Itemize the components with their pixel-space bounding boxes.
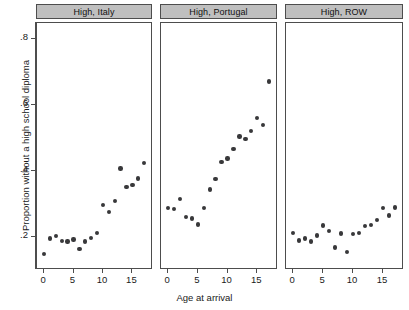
data-point xyxy=(213,177,217,181)
y-tick-mark xyxy=(31,38,35,39)
chart-panel: High, Portugal051015 xyxy=(160,22,277,269)
y-tick-label: .2 xyxy=(6,230,28,240)
x-axis-label: Age at arrival xyxy=(0,292,409,303)
x-tick-mark xyxy=(322,269,323,273)
x-tick-label: 5 xyxy=(185,275,209,285)
x-tick-label: 15 xyxy=(119,275,143,285)
x-tick-mark xyxy=(227,269,228,273)
data-point xyxy=(303,236,307,240)
x-tick-mark xyxy=(382,269,383,273)
data-point xyxy=(48,236,52,240)
y-tick-label: .4 xyxy=(6,164,28,174)
x-tick-mark xyxy=(73,269,74,273)
data-point xyxy=(309,239,313,243)
x-tick-mark xyxy=(167,269,168,273)
x-tick-label: 15 xyxy=(370,275,394,285)
data-point xyxy=(369,223,373,227)
data-point xyxy=(327,229,331,233)
x-tick-mark xyxy=(292,269,293,273)
data-point xyxy=(243,137,247,141)
panel-title-strip: High, ROW xyxy=(285,4,403,19)
x-tick-mark xyxy=(197,269,198,273)
data-point xyxy=(89,236,93,240)
chart-panel: High, ROW051015 xyxy=(285,22,403,269)
y-tick-mark xyxy=(31,236,35,237)
panel-title-label: High, Portugal xyxy=(189,7,247,17)
panel-title-label: High, ROW xyxy=(321,7,367,17)
data-point xyxy=(136,176,140,180)
data-point xyxy=(71,237,75,241)
data-point xyxy=(321,223,325,227)
data-point xyxy=(196,222,200,226)
data-point xyxy=(95,231,99,235)
data-point xyxy=(393,205,397,209)
data-point xyxy=(267,79,271,83)
data-point xyxy=(255,116,259,120)
data-point xyxy=(178,197,182,201)
x-tick-mark xyxy=(43,269,44,273)
plot-area xyxy=(160,22,277,269)
data-point xyxy=(65,239,69,243)
data-point xyxy=(363,224,367,228)
data-point xyxy=(225,156,229,160)
x-tick-label: 0 xyxy=(280,275,304,285)
data-point xyxy=(291,231,295,235)
data-point xyxy=(54,234,58,238)
x-tick-label: 0 xyxy=(155,275,179,285)
data-point xyxy=(219,160,223,164)
data-point xyxy=(113,199,117,203)
x-tick-label: 10 xyxy=(90,275,114,285)
data-point xyxy=(107,210,111,214)
x-tick-label: 0 xyxy=(31,275,55,285)
x-tick-label: 10 xyxy=(340,275,364,285)
data-point xyxy=(142,161,146,165)
y-tick-mark xyxy=(31,170,35,171)
plot-area xyxy=(285,22,403,269)
data-point xyxy=(42,252,46,256)
data-point xyxy=(60,239,64,243)
data-point xyxy=(202,206,206,210)
data-point xyxy=(190,216,194,220)
data-point xyxy=(339,231,343,235)
plot-area xyxy=(36,22,152,269)
y-tick-mark xyxy=(31,104,35,105)
data-point xyxy=(166,206,170,210)
y-tick-label: .8 xyxy=(6,32,28,42)
data-point xyxy=(208,187,212,191)
data-point xyxy=(381,206,385,210)
data-point xyxy=(315,233,319,237)
x-tick-mark xyxy=(102,269,103,273)
data-point xyxy=(231,147,235,151)
chart-figure: Proportion without a high school diploma… xyxy=(0,0,409,310)
data-point xyxy=(172,207,176,211)
data-point xyxy=(130,183,134,187)
data-point xyxy=(345,250,349,254)
data-point xyxy=(118,166,122,170)
x-tick-label: 5 xyxy=(61,275,85,285)
data-point xyxy=(184,215,188,219)
data-point xyxy=(101,203,105,207)
x-tick-mark xyxy=(131,269,132,273)
data-point xyxy=(351,232,355,236)
data-point xyxy=(83,239,87,243)
chart-panel: High, Italy051015 xyxy=(36,22,152,269)
data-point xyxy=(124,185,128,189)
x-tick-label: 10 xyxy=(215,275,239,285)
data-point xyxy=(297,238,301,242)
panel-title-label: High, Italy xyxy=(73,7,114,17)
panel-title-strip: High, Portugal xyxy=(160,4,277,19)
x-tick-label: 5 xyxy=(310,275,334,285)
data-point xyxy=(387,213,391,217)
x-tick-label: 15 xyxy=(244,275,268,285)
data-point xyxy=(77,247,81,251)
x-tick-mark xyxy=(256,269,257,273)
panel-title-strip: High, Italy xyxy=(36,4,152,19)
data-point xyxy=(261,123,265,127)
data-point xyxy=(333,245,337,249)
data-point xyxy=(249,129,253,133)
y-tick-label: .6 xyxy=(6,98,28,108)
data-point xyxy=(375,218,379,222)
data-point xyxy=(357,231,361,235)
x-tick-mark xyxy=(352,269,353,273)
data-point xyxy=(237,134,241,138)
